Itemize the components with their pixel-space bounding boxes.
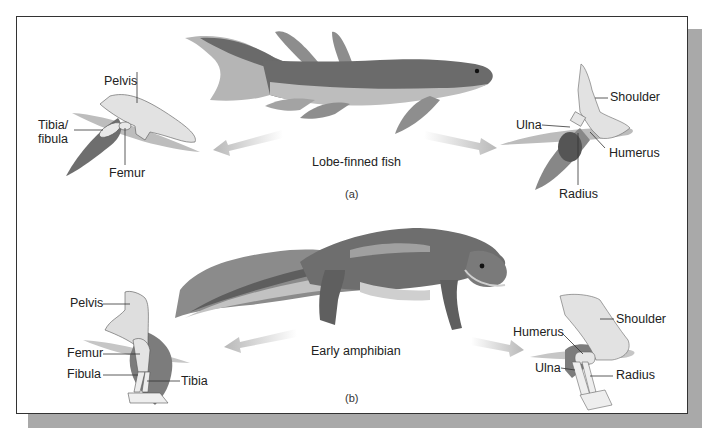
- panel-label-a: (a): [345, 188, 358, 200]
- early-amphibian-illustration: [175, 228, 507, 330]
- label-a-radius: Radius: [559, 187, 598, 201]
- label-a-tibia-fibula: Tibia/ fibula: [38, 118, 68, 147]
- label-b-femur: Femur: [67, 346, 103, 360]
- label-a-ulna: Ulna: [516, 118, 542, 132]
- arrow-left-a: [213, 130, 283, 156]
- label-b-humerus: Humerus: [513, 325, 564, 339]
- organism-label-a: Lobe-finned fish: [312, 155, 401, 169]
- arrow-right-b: [471, 337, 524, 357]
- arrow-left-b: [224, 329, 297, 353]
- label-b-ulna: Ulna: [535, 361, 561, 375]
- label-a-pelvis: Pelvis: [104, 74, 137, 88]
- label-a-shoulder: Shoulder: [610, 90, 660, 104]
- label-b-tibia: Tibia: [181, 374, 208, 388]
- label-b-pelvis: Pelvis: [70, 296, 103, 310]
- arrow-right-a: [424, 131, 497, 155]
- label-a-humerus: Humerus: [609, 146, 660, 160]
- lobe-finned-fish-illustration: [185, 31, 493, 134]
- panel-label-b: (b): [345, 392, 358, 404]
- figure-artwork: [0, 0, 712, 436]
- label-b-fibula: Fibula: [67, 367, 101, 381]
- label-a-femur: Femur: [109, 166, 145, 180]
- label-b-shoulder: Shoulder: [616, 312, 666, 326]
- label-b-radius: Radius: [616, 368, 655, 382]
- organism-label-b: Early amphibian: [311, 344, 401, 358]
